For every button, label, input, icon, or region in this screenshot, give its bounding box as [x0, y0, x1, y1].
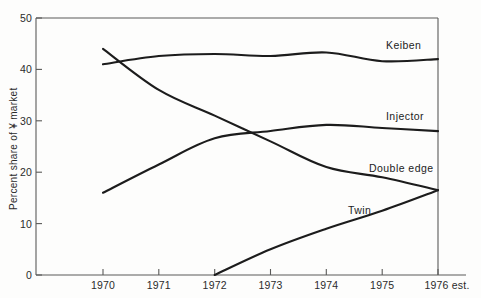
y-tick-label-0: 0 — [26, 269, 32, 281]
x-tick-label-1973: 1973 — [258, 279, 282, 291]
y-tick-label-40: 40 — [20, 63, 32, 75]
y-axis-title: Percent share of ¥ market — [8, 87, 19, 210]
series-label-double-edge: Double edge — [369, 162, 434, 174]
x-tick-label-1971: 1971 — [147, 279, 171, 291]
series-line-keiben — [103, 52, 438, 64]
y-tick-label-20: 20 — [20, 166, 32, 178]
series-label-twin: Twin — [348, 204, 371, 216]
chart-container: 50 40 30 20 10 0 1970 1971 1972 1973 197… — [0, 0, 481, 298]
x-tick-label-1976: 1976 est. — [425, 279, 470, 291]
x-tick-label-1975: 1975 — [370, 279, 394, 291]
x-tick-label-1970: 1970 — [91, 279, 115, 291]
series-line-injector — [103, 125, 438, 193]
y-tick-label-30: 30 — [20, 115, 32, 127]
y-tick-label-50: 50 — [20, 12, 32, 24]
series-label-keiben: Keiben — [386, 39, 421, 51]
y-tick-marks — [36, 18, 42, 275]
x-tick-marks — [103, 269, 438, 275]
y-tick-labels: 50 40 30 20 10 0 — [20, 12, 32, 281]
x-tick-label-1972: 1972 — [203, 279, 227, 291]
line-chart: 50 40 30 20 10 0 1970 1971 1972 1973 197… — [0, 0, 481, 298]
y-tick-label-10: 10 — [20, 218, 32, 230]
x-tick-labels: 1970 1971 1972 1973 1974 1975 1976 est. — [91, 279, 470, 291]
x-tick-label-1974: 1974 — [314, 279, 338, 291]
series-line-twin — [215, 190, 438, 275]
series-label-injector: Injector — [386, 110, 424, 122]
